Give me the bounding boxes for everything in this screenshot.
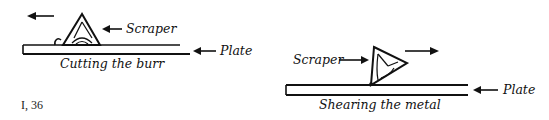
burr xyxy=(55,39,61,45)
left-figure xyxy=(23,12,216,55)
plate-label-right: Plate xyxy=(503,84,535,97)
plate-pointer-right-icon xyxy=(473,86,498,94)
plate-pointer-left-icon xyxy=(193,47,216,55)
scraper-label-right: Scraper xyxy=(293,54,343,67)
plate-label-left: Plate xyxy=(220,45,252,58)
caption-left: Cutting the burr xyxy=(60,58,164,71)
scraper-left-icon xyxy=(63,14,100,45)
motion-arrow-right-icon xyxy=(405,47,439,55)
scraper-pointer-left-icon xyxy=(102,25,122,33)
plate-right xyxy=(286,85,468,95)
scraper-label-left: Scraper xyxy=(126,23,176,36)
figure-reference: I, 36 xyxy=(21,98,43,113)
motion-arrow-left-icon xyxy=(27,12,54,20)
caption-right: Shearing the metal xyxy=(319,99,441,112)
scraper-pointer-right-icon xyxy=(339,56,369,64)
plate-left xyxy=(23,45,190,54)
scraper-right-icon xyxy=(369,47,407,86)
